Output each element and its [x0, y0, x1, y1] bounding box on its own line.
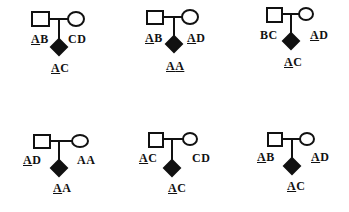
- child-genotype: AC: [168, 182, 186, 194]
- allele: B: [266, 150, 275, 164]
- child-genotype: AC: [284, 56, 302, 68]
- allele: A: [51, 61, 60, 75]
- allele: C: [293, 55, 302, 69]
- allele: A: [310, 28, 319, 42]
- allele: A: [284, 55, 293, 69]
- mother-circle-icon: [68, 12, 84, 26]
- allele: A: [175, 59, 184, 73]
- allele: A: [168, 181, 177, 195]
- mother-genotype: AD: [310, 29, 328, 41]
- father-square-icon: [147, 11, 163, 24]
- allele: C: [192, 151, 201, 165]
- mother-genotype: AD: [311, 151, 329, 163]
- allele: C: [269, 28, 278, 42]
- mother-genotype: AA: [77, 154, 95, 166]
- affected-child-diamond-icon: [284, 158, 300, 174]
- allele: A: [187, 31, 196, 45]
- allele: C: [68, 32, 77, 46]
- pedigree-panel-6-symbols: [268, 133, 314, 174]
- father-genotype: AB: [145, 32, 163, 44]
- affected-child-diamond-icon: [164, 160, 180, 176]
- father-square-icon: [268, 133, 282, 146]
- affected-child-diamond-icon: [51, 160, 67, 176]
- allele: A: [145, 31, 154, 45]
- allele: A: [287, 179, 296, 193]
- allele: A: [257, 150, 266, 164]
- allele: C: [60, 61, 69, 75]
- father-genotype: AC: [139, 152, 157, 164]
- father-square-icon: [149, 133, 163, 147]
- mother-circle-icon: [299, 8, 313, 20]
- mother-circle-icon: [72, 135, 88, 147]
- allele: A: [53, 181, 62, 195]
- child-genotype: AC: [287, 180, 305, 192]
- mother-circle-icon: [300, 133, 314, 145]
- allele: A: [311, 150, 320, 164]
- mother-genotype: CD: [192, 152, 210, 164]
- allele: A: [31, 32, 40, 46]
- allele: A: [62, 181, 71, 195]
- allele: D: [319, 28, 328, 42]
- allele: B: [154, 31, 163, 45]
- mother-genotype: AD: [187, 32, 205, 44]
- father-genotype: AD: [23, 154, 41, 166]
- mother-circle-icon: [182, 10, 198, 24]
- allele: B: [260, 28, 269, 42]
- father-square-icon: [32, 12, 49, 26]
- allele: A: [139, 151, 148, 165]
- father-square-icon: [267, 8, 282, 22]
- allele: D: [320, 150, 329, 164]
- allele: D: [32, 153, 41, 167]
- allele: D: [77, 32, 86, 46]
- father-genotype: BC: [260, 29, 278, 41]
- allele: C: [148, 151, 157, 165]
- allele: A: [166, 59, 175, 73]
- allele: D: [196, 31, 205, 45]
- affected-child-diamond-icon: [51, 39, 67, 55]
- allele: A: [77, 153, 86, 167]
- allele: A: [86, 153, 95, 167]
- father-genotype: AB: [257, 151, 275, 163]
- affected-child-diamond-icon: [166, 36, 182, 52]
- allele: C: [177, 181, 186, 195]
- allele: D: [201, 151, 210, 165]
- mother-circle-icon: [183, 133, 197, 145]
- child-genotype: AC: [51, 62, 69, 74]
- affected-child-diamond-icon: [283, 33, 299, 49]
- pedigree-figure: AB CD AC AB AD AA BC AD AC AD AA AA AC C…: [0, 0, 349, 212]
- allele: A: [23, 153, 32, 167]
- father-square-icon: [34, 135, 50, 148]
- father-genotype: AB: [31, 33, 49, 45]
- child-genotype: AA: [53, 182, 71, 194]
- child-genotype: AA: [166, 60, 184, 72]
- allele: C: [296, 179, 305, 193]
- mother-genotype: CD: [68, 33, 86, 45]
- allele: B: [40, 32, 49, 46]
